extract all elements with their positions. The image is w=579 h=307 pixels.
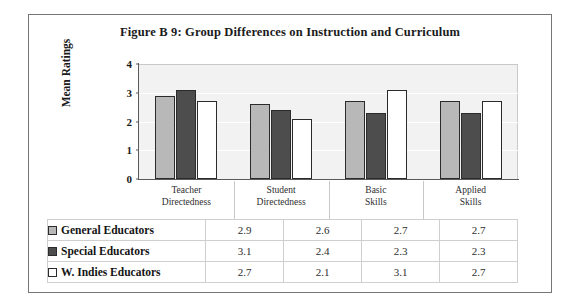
legend-label: General Educators	[61, 224, 154, 236]
legend-cell: Special Educators	[48, 241, 206, 262]
table-cell-value: 2.3	[440, 241, 518, 262]
legend-swatch-icon	[48, 247, 57, 256]
table-row: General Educators2.92.62.72.7	[48, 220, 518, 241]
bar-group	[139, 64, 234, 179]
y-tick-label: 2	[127, 116, 133, 127]
x-axis-category-label-line: Directedness	[234, 196, 329, 208]
figure-frame: Figure B 9: Group Differences on Instruc…	[28, 14, 552, 293]
bar	[345, 101, 365, 179]
y-tick-label: 0	[127, 174, 133, 185]
legend-label: Special Educators	[61, 245, 150, 257]
x-axis-category-labels: TeacherDirectednessStudentDirectednessBa…	[139, 181, 518, 219]
legend-swatch-icon	[48, 226, 57, 235]
table-cell-value: 2.1	[284, 262, 362, 283]
x-axis-category-label-line: Skills	[329, 196, 424, 208]
x-axis-category-label-line: Directedness	[139, 196, 234, 208]
legend-label: W. Indies Educators	[61, 266, 161, 278]
table-cell-value: 2.3	[362, 241, 440, 262]
bar	[482, 101, 502, 179]
table-cell-value: 2.7	[440, 220, 518, 241]
bar	[440, 101, 460, 179]
y-tick-label: 1	[127, 145, 133, 156]
table-row: W. Indies Educators2.72.13.12.7	[48, 262, 518, 283]
y-axis-line	[138, 63, 139, 180]
table-cell-value: 2.7	[206, 262, 284, 283]
bar-group	[423, 64, 518, 179]
table-row: Special Educators3.12.42.32.3	[48, 241, 518, 262]
x-axis-category-label: AppliedSkills	[423, 181, 518, 219]
legend-cell: General Educators	[48, 220, 206, 241]
x-axis-line	[138, 179, 519, 180]
table-cell-value: 2.7	[362, 220, 440, 241]
bar	[176, 90, 196, 179]
y-tick-label: 3	[127, 87, 133, 98]
y-tick-label: 4	[127, 59, 133, 70]
x-axis-category-label-line: Applied	[423, 184, 518, 196]
plot-region: 01234	[139, 64, 518, 179]
chart-title: Figure B 9: Group Differences on Instruc…	[29, 25, 551, 40]
table-cell-value: 3.1	[362, 262, 440, 283]
legend-cell: W. Indies Educators	[48, 262, 206, 283]
bars-layer	[139, 64, 518, 179]
table-cell-value: 2.4	[284, 241, 362, 262]
x-axis-category-label-line: Basic	[329, 184, 424, 196]
bar	[461, 113, 481, 179]
x-axis-category-label-line: Student	[234, 184, 329, 196]
y-axis-title: Mean Ratings	[60, 18, 72, 128]
bar	[366, 113, 386, 179]
x-axis-category-label: BasicSkills	[329, 181, 424, 219]
x-axis-category-label-line: Teacher	[139, 184, 234, 196]
table-cell-value: 3.1	[206, 241, 284, 262]
bar	[292, 119, 312, 179]
legend-swatch-icon	[48, 268, 57, 277]
x-axis-category-label: TeacherDirectedness	[139, 181, 234, 219]
x-axis-category-label-line: Skills	[423, 196, 518, 208]
bar-group	[329, 64, 424, 179]
bar	[197, 101, 217, 179]
bar	[155, 96, 175, 179]
bar	[387, 90, 407, 179]
table-cell-value: 2.6	[284, 220, 362, 241]
table-cell-value: 2.7	[440, 262, 518, 283]
bar	[250, 104, 270, 179]
bar-group	[234, 64, 329, 179]
table-cell-value: 2.9	[206, 220, 284, 241]
x-axis-category-label: StudentDirectedness	[234, 181, 329, 219]
legend-data-table: General Educators2.92.62.72.7Special Edu…	[47, 219, 518, 283]
bar	[271, 110, 291, 179]
